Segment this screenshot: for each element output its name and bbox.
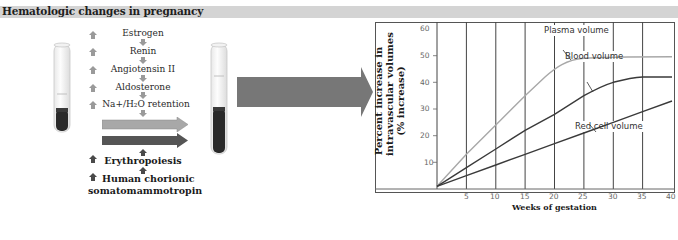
plasma-volume-label: Plasma volume [544, 25, 609, 35]
x-tick-label: 25 [578, 192, 588, 201]
x-tick-label: 40 [666, 192, 676, 201]
y-tick-label: 20 [420, 131, 430, 140]
x-tick-label: 30 [608, 192, 618, 201]
y-tick-label: 30 [420, 104, 430, 113]
x-tick-label: 35 [637, 192, 647, 201]
grid-lines [466, 22, 642, 189]
x-tick-label: 20 [549, 192, 559, 201]
x-tick-label: 15 [520, 192, 530, 201]
x-tick-label: 5 [464, 192, 469, 201]
y-tick-label: 10 [424, 158, 434, 167]
y-tick-label: 60 [420, 24, 430, 33]
x-tick-label: 10 [490, 192, 500, 201]
red-cell-volume-label: Red cell volume [575, 121, 643, 131]
blood-volume-label: Blood volume [565, 51, 623, 61]
y-tick-label: 50 [420, 51, 430, 60]
x-axis-title: Weeks of gestation [512, 202, 597, 212]
y-tick-label: 40 [420, 78, 430, 87]
